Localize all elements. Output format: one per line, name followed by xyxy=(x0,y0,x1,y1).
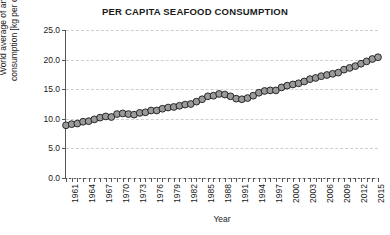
x-tick-mark xyxy=(106,178,107,182)
x-tick-label: 1985 xyxy=(206,184,216,203)
x-tick-mark xyxy=(287,178,288,182)
x-tick-mark xyxy=(259,178,260,182)
x-tick-mark xyxy=(316,178,317,182)
x-tick-label: 1982 xyxy=(189,184,199,203)
x-tick-mark xyxy=(208,178,209,182)
x-tick-mark xyxy=(253,178,254,182)
x-tick-label: 1970 xyxy=(121,184,131,203)
x-tick-mark xyxy=(179,178,180,182)
x-tick-mark xyxy=(77,178,78,182)
y-tick-label: 20.0 xyxy=(43,55,60,65)
y-axis-label-line-1: World average of annual xyxy=(0,0,9,104)
y-tick-label: 5.0 xyxy=(48,143,60,153)
x-tick-mark xyxy=(310,178,311,182)
x-tick-mark xyxy=(185,178,186,182)
x-tick-mark xyxy=(213,178,214,182)
x-tick-mark xyxy=(372,178,373,182)
x-tick-label: 1967 xyxy=(104,184,114,203)
x-tick-mark xyxy=(378,178,379,182)
x-tick-label: 2012 xyxy=(359,184,369,203)
x-tick-mark xyxy=(168,178,169,182)
x-tick-label: 1991 xyxy=(240,184,250,203)
chart-title: PER CAPITA SEAFOOD CONSUMPTION xyxy=(0,6,390,17)
x-tick-mark xyxy=(145,178,146,182)
x-tick-mark xyxy=(140,178,141,182)
x-tick-label: 1997 xyxy=(274,184,284,203)
x-tick-mark xyxy=(123,178,124,182)
x-tick-mark xyxy=(344,178,345,182)
y-axis-label: World average of annual consumption [kg … xyxy=(0,0,20,104)
x-tick-label: 1979 xyxy=(172,184,182,203)
x-tick-mark xyxy=(338,178,339,182)
x-tick-mark xyxy=(117,178,118,182)
x-tick-mark xyxy=(202,178,203,182)
x-tick-mark xyxy=(174,178,175,182)
gridline xyxy=(66,178,378,179)
y-tick-label: 15.0 xyxy=(43,84,60,94)
x-tick-mark xyxy=(321,178,322,182)
x-tick-label: 2006 xyxy=(325,184,335,203)
x-tick-label: 1994 xyxy=(257,184,267,203)
x-tick-mark xyxy=(231,178,232,182)
x-tick-label: 1961 xyxy=(70,184,80,203)
x-tick-mark xyxy=(361,178,362,182)
x-tick-mark xyxy=(355,178,356,182)
y-tick-label: 25.0 xyxy=(43,25,60,35)
x-tick-mark xyxy=(162,178,163,182)
series-seafood-consumption xyxy=(66,30,378,178)
x-tick-mark xyxy=(66,178,67,182)
x-tick-label: 2015 xyxy=(376,184,386,203)
x-axis-label: Year xyxy=(66,214,378,224)
x-tick-label: 2000 xyxy=(291,184,301,203)
x-tick-mark xyxy=(111,178,112,182)
x-tick-mark xyxy=(72,178,73,182)
x-tick-mark xyxy=(100,178,101,182)
x-tick-mark xyxy=(151,178,152,182)
chart-figure: PER CAPITA SEAFOOD CONSUMPTION World ave… xyxy=(0,0,390,235)
x-tick-label: 1973 xyxy=(138,184,148,203)
x-tick-mark xyxy=(327,178,328,182)
x-tick-mark xyxy=(270,178,271,182)
x-tick-mark xyxy=(225,178,226,182)
data-point xyxy=(375,54,382,61)
x-tick-label: 1988 xyxy=(223,184,233,203)
x-tick-mark xyxy=(276,178,277,182)
x-tick-label: 2009 xyxy=(342,184,352,203)
x-tick-mark xyxy=(248,178,249,182)
x-tick-mark xyxy=(196,178,197,182)
x-tick-mark xyxy=(304,178,305,182)
x-tick-mark xyxy=(350,178,351,182)
x-tick-mark xyxy=(219,178,220,182)
y-tick-label: 0.0 xyxy=(48,173,60,183)
x-tick-mark xyxy=(265,178,266,182)
y-tick-label: 10.0 xyxy=(43,114,60,124)
x-tick-mark xyxy=(89,178,90,182)
x-tick-mark xyxy=(83,178,84,182)
x-tick-label: 2003 xyxy=(308,184,318,203)
x-tick-mark xyxy=(191,178,192,182)
plot-area: 0.05.010.015.020.025.0 19611964196719701… xyxy=(66,30,378,178)
x-tick-mark xyxy=(282,178,283,182)
x-tick-mark xyxy=(128,178,129,182)
x-tick-label: 1976 xyxy=(155,184,165,203)
x-tick-mark xyxy=(299,178,300,182)
x-tick-mark xyxy=(157,178,158,182)
x-tick-mark xyxy=(236,178,237,182)
x-tick-mark xyxy=(367,178,368,182)
y-axis-label-line-2: consumption [kg per capita] xyxy=(9,0,20,104)
x-tick-mark xyxy=(333,178,334,182)
x-tick-mark xyxy=(242,178,243,182)
x-tick-mark xyxy=(134,178,135,182)
x-tick-mark xyxy=(293,178,294,182)
x-tick-label: 1964 xyxy=(87,184,97,203)
x-tick-mark xyxy=(94,178,95,182)
